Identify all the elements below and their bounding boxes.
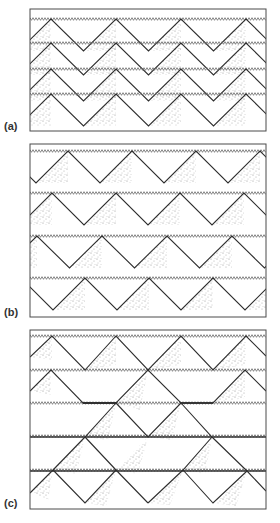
panel-c-content [30,335,266,506]
stipple-shading [276,193,279,225]
panel-label-b: (b) [4,306,18,318]
serrated-line [30,335,266,338]
panel-label-a: (a) [4,120,17,132]
stipple-shading [279,43,280,75]
stipple-shading [265,236,280,268]
serrated-line [30,150,266,153]
stipple-shading [0,151,4,183]
stipple-shading [279,94,280,126]
zigzag-segment [181,403,266,491]
serrated-line [30,235,266,238]
stipple-shading [279,19,280,51]
panel-b-content [0,150,279,310]
panel-b [0,144,279,317]
figure-root: (a) (b) (c) [0,0,279,523]
stipple-shading [31,470,53,500]
serrated-line [30,192,266,195]
panel-c [30,330,266,509]
stipple-shading [116,370,148,410]
zigzag-segment [31,403,116,492]
zigzag-row [0,236,279,268]
panel-a [0,9,279,131]
serrated-line [30,18,266,21]
stipple-shading [279,69,280,101]
diagram-canvas [0,0,279,523]
serrated-line [30,402,266,405]
panel-label-c: (c) [4,497,17,509]
panel-a-content [0,18,279,126]
